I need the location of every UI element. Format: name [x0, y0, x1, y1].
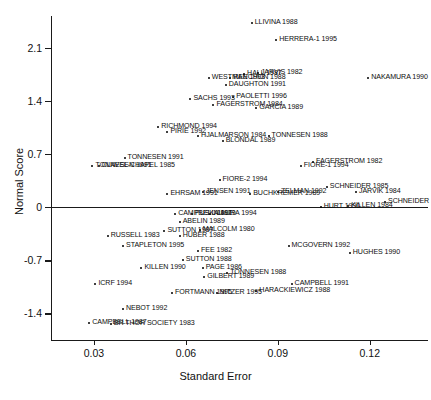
data-point-label: HARACKIEWICZ 1988: [259, 287, 330, 295]
data-point-label: FIORE-2 1994: [223, 176, 268, 184]
plot-area: -1.4-0.700.71.42.10.030.060.090.12 LLIVI…: [0, 0, 431, 400]
data-point: [216, 292, 218, 294]
x-tick-label: 0.06: [176, 347, 196, 359]
y-tick-label: -1.4: [0, 307, 42, 319]
data-point-label: HUGHES 1990: [353, 249, 400, 257]
data-point: [166, 193, 168, 195]
data-point-label: KILLEN 1984: [351, 202, 392, 210]
data-point: [91, 165, 93, 167]
data-point: [122, 308, 124, 310]
y-tick-mark: [45, 48, 51, 49]
y-tick-mark: [45, 207, 51, 208]
data-point: [203, 276, 205, 278]
x-tick-label: 0.12: [360, 347, 380, 359]
data-point: [189, 98, 191, 100]
data-point-label: GILBERT 1989: [207, 273, 254, 281]
data-point-label: FEE 1982: [201, 247, 232, 255]
y-tick-label: 1.4: [0, 95, 42, 107]
data-point: [191, 213, 193, 215]
data-point-label: BLONDAL 1989: [226, 137, 276, 145]
x-tick-label: 0.09: [268, 347, 288, 359]
data-point: [349, 252, 351, 254]
data-point-label: STAPLETON 1995: [126, 242, 184, 250]
data-point: [202, 267, 204, 269]
data-point-label: BR THOR SOCIETY 1983: [114, 320, 195, 328]
data-point-label: HUBER 1988: [183, 232, 225, 240]
data-point: [107, 235, 109, 237]
data-point-label: HERRERA-1 1995: [279, 36, 337, 44]
data-point-label: DAUGHTON 1991: [229, 81, 286, 89]
data-point: [174, 213, 176, 215]
x-tick-mark: [278, 340, 279, 345]
data-point: [347, 205, 349, 207]
y-tick-mark: [45, 313, 51, 314]
x-tick-mark: [370, 340, 371, 345]
data-point: [225, 84, 227, 86]
y-axis-line: [51, 16, 52, 340]
data-point: [251, 22, 253, 24]
data-point-label: KILLEN 1990: [144, 264, 185, 272]
data-point: [140, 267, 142, 269]
data-point: [98, 165, 100, 167]
data-point-label: NEBOT 1992: [126, 305, 167, 313]
data-point: [275, 39, 277, 41]
x-tick-mark: [94, 340, 95, 345]
data-point: [320, 206, 322, 208]
data-point: [212, 104, 214, 106]
data-point: [288, 245, 290, 247]
data-point-label: NAKAMURA 1990: [371, 74, 428, 82]
data-point-label: LLIVINA 1988: [255, 19, 298, 27]
data-point: [277, 191, 279, 193]
y-tick-mark: [45, 260, 51, 261]
data-point: [300, 165, 302, 167]
data-point: [208, 77, 210, 79]
data-point: [94, 283, 96, 285]
data-point-label: JENSEN 1991: [206, 188, 251, 196]
data-point: [88, 322, 90, 324]
data-point-label: SCHNEIDER: [388, 198, 429, 206]
y-tick-mark: [45, 154, 51, 155]
y-tick-label: -0.7: [0, 254, 42, 266]
data-point: [209, 213, 211, 215]
data-point: [249, 193, 251, 195]
data-point: [291, 283, 293, 285]
funnel-plot: -1.4-0.700.71.42.10.030.060.090.12 LLIVI…: [0, 0, 431, 400]
data-point-label: JARVIK 1984: [359, 188, 401, 196]
data-point-label: TONNESEN 1988: [272, 132, 328, 140]
data-point-label: ZELMAN 1992: [281, 189, 327, 197]
data-point: [202, 191, 204, 193]
x-axis-title: Standard Error: [0, 370, 431, 382]
data-point: [367, 77, 369, 79]
data-point: [179, 221, 181, 223]
data-point: [219, 179, 221, 181]
data-point: [124, 157, 126, 159]
data-point: [222, 140, 224, 142]
data-point: [179, 235, 181, 237]
data-point-label: FIORE-1 1994: [304, 162, 349, 170]
data-point-label: ICRF 1994: [98, 280, 132, 288]
data-point: [163, 230, 165, 232]
data-point-label: CLAVEL-CHAPEL 1985: [102, 162, 175, 170]
data-point: [255, 107, 257, 109]
data-point: [182, 259, 184, 261]
data-point: [122, 245, 124, 247]
data-point: [255, 290, 257, 292]
data-point: [232, 96, 234, 98]
data-point: [171, 292, 173, 294]
x-tick-mark: [186, 340, 187, 345]
data-point: [166, 131, 168, 133]
data-point-label: MCGOVERN 1992: [292, 242, 351, 250]
y-tick-label: 2.1: [0, 42, 42, 54]
y-tick-mark: [45, 101, 51, 102]
data-point-label: RUSSELL 1983: [111, 232, 160, 240]
y-axis-title: Normal Score: [13, 148, 25, 215]
data-point: [197, 250, 199, 252]
data-point-label: GARCIA 1989: [259, 104, 303, 112]
data-point: [268, 135, 270, 137]
data-point: [355, 191, 357, 193]
data-point: [157, 126, 159, 128]
data-point: [197, 135, 199, 137]
x-axis-line: [51, 340, 428, 341]
x-tick-label: 0.03: [84, 347, 104, 359]
data-point: [110, 323, 112, 325]
